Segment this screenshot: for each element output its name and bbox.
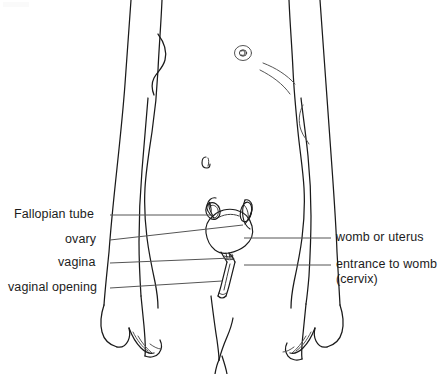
label-fallopian-tube: Fallopian tube (14, 207, 94, 222)
label-vaginal-opening-text: vaginal opening (8, 280, 97, 294)
label-vagina: vagina (58, 255, 95, 270)
legs-inner-thigh (211, 296, 233, 374)
leader-ovary (110, 225, 243, 240)
label-womb-or-uterus-text: womb or uterus (336, 230, 424, 244)
anatomy-diagram: Fallopian tube ovary vagina vaginal open… (0, 0, 447, 374)
label-womb-or-uterus: womb or uterus (336, 230, 424, 245)
label-cervix-text: (cervix) (336, 272, 378, 286)
label-ovary-text: ovary (65, 232, 96, 246)
left-hand (101, 296, 161, 357)
label-vagina-text: vagina (58, 255, 95, 269)
right-hand (283, 304, 343, 360)
left-arm (104, 0, 148, 305)
label-vaginal-opening: vaginal opening (8, 280, 97, 295)
anatomy-illustration (0, 0, 447, 374)
leader-vaginal-opening (110, 281, 222, 288)
right-arm (299, 0, 340, 305)
torso-outline (145, 0, 305, 308)
leader-vagina (110, 258, 232, 263)
nipple-detail (235, 46, 252, 61)
label-fallopian-tube-text: Fallopian tube (14, 207, 94, 221)
label-entrance-to-womb: entrance to womb (cervix) (336, 257, 437, 288)
leader-lines (110, 215, 331, 288)
navel (202, 157, 210, 168)
label-entrance-to-womb-text: entrance to womb (336, 257, 437, 271)
label-ovary: ovary (65, 232, 96, 247)
breast-contours (152, 34, 295, 95)
vagina-organ (218, 262, 235, 298)
left-fallopian-tube-and-ovary (204, 198, 223, 221)
